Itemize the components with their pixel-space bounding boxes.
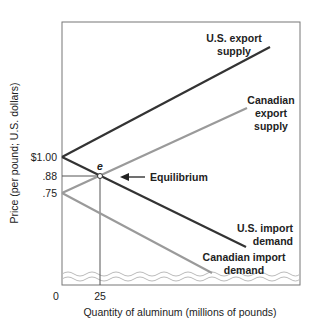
y-tick-75: .75 (42, 187, 57, 199)
trade-equilibrium-chart: e Equilibrium U.S. export supply Canadia… (0, 0, 315, 321)
us-import-label-2: demand (253, 235, 293, 247)
eq-point-label: e (97, 160, 103, 172)
y-axis-title: Price (per pound; U.S. dollars) (8, 82, 20, 223)
us-export-label-1: U.S. export (206, 32, 262, 44)
can-export-label-1: Canadian (247, 94, 294, 106)
equilibrium-label: Equilibrium (150, 171, 208, 183)
equilibrium-arrow-icon (120, 173, 145, 181)
x-tick-25: 25 (94, 290, 106, 302)
equilibrium-point (98, 174, 103, 179)
can-export-label-3: supply (254, 120, 288, 132)
canadian-import-demand-line (62, 193, 212, 273)
can-import-label-1: Canadian import (203, 251, 286, 263)
y-tick-100: $1.00 (31, 151, 57, 163)
can-export-label-2: export (255, 107, 288, 119)
us-export-label-2: supply (217, 45, 251, 57)
us-import-label-1: U.S. import (237, 222, 294, 234)
x-axis-title: Quantity of aluminum (millions of pounds… (83, 306, 276, 318)
us-export-supply-line (62, 47, 270, 157)
can-import-label-2: demand (224, 264, 264, 276)
x-tick-0: 0 (53, 290, 59, 302)
y-tick-88: .88 (42, 170, 57, 182)
